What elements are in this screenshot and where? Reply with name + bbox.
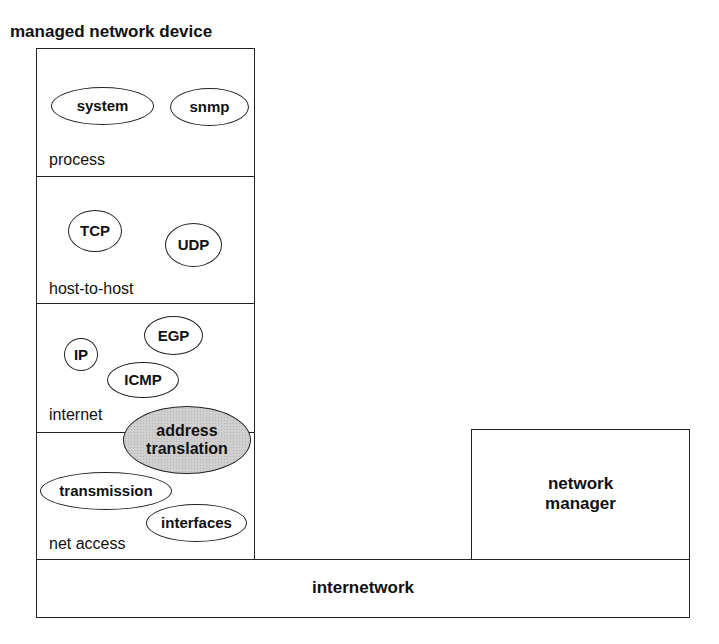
module-snmp: snmp [170, 88, 249, 126]
address-translation-line2: translation [146, 440, 228, 457]
module-egp: EGP [144, 316, 203, 355]
module-label: ICMP [124, 371, 162, 388]
layer-divider-host-to-host [36, 303, 255, 304]
network-manager-label: network manager [471, 474, 690, 515]
module-transmission: transmission [40, 472, 172, 510]
module-icmp: ICMP [107, 362, 179, 398]
module-interfaces: interfaces [146, 504, 247, 542]
layer-label-net-access: net access [49, 535, 125, 553]
internetwork-label: internetwork [36, 578, 690, 598]
module-label: UDP [178, 236, 210, 253]
layer-label-host-to-host: host-to-host [49, 280, 133, 298]
address-translation-line1: address [156, 422, 217, 439]
module-label: system [77, 97, 129, 114]
module-tcp: TCP [68, 210, 122, 252]
module-ip: IP [64, 338, 98, 371]
module-address-translation: address translation [123, 406, 251, 474]
module-label: interfaces [161, 514, 232, 531]
layer-divider-process [36, 176, 255, 177]
layer-label-process: process [49, 151, 105, 169]
network-manager-line1: network [548, 474, 613, 493]
module-label: TCP [80, 222, 110, 239]
diagram-title: managed network device [10, 22, 212, 42]
address-translation-label: address translation [146, 422, 228, 459]
layer-label-internet: internet [49, 406, 102, 424]
module-label: EGP [158, 327, 190, 344]
network-manager-line2: manager [545, 494, 616, 513]
module-system: system [51, 87, 154, 125]
module-label: snmp [189, 98, 229, 115]
module-udp: UDP [165, 223, 222, 267]
module-label: IP [74, 346, 88, 363]
module-label: transmission [59, 482, 152, 499]
